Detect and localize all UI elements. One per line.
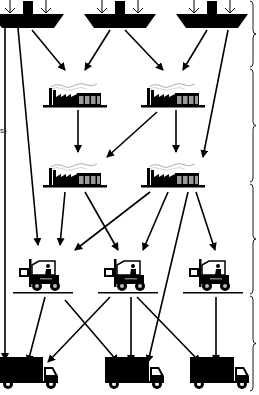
flow-arrow xyxy=(28,297,45,362)
tier-brace xyxy=(250,184,256,294)
flow-arrow xyxy=(137,297,200,362)
flow-arrow xyxy=(125,30,163,70)
tier-braces xyxy=(250,1,256,391)
ship-icon xyxy=(0,0,64,28)
flow-arrow xyxy=(107,112,157,157)
flow-arrow xyxy=(48,297,110,362)
truck-icon xyxy=(0,357,58,389)
forklift-icon xyxy=(98,259,158,294)
tier-brace xyxy=(250,296,256,391)
flow-arrow xyxy=(18,28,38,245)
truck-icon xyxy=(105,357,164,389)
tier-brace xyxy=(250,69,256,182)
flow-arrow xyxy=(65,300,118,362)
factory-icon xyxy=(141,84,205,108)
forklift-icon xyxy=(13,259,73,294)
flow-arrow xyxy=(203,30,228,157)
supply-chain-diagram: s) xyxy=(0,0,259,395)
flow-arrow xyxy=(143,192,168,250)
ship-icon xyxy=(176,0,248,28)
flow-arrow xyxy=(196,192,215,250)
tier-brace xyxy=(250,1,256,67)
factory-icon xyxy=(43,164,107,188)
truck-icon xyxy=(190,357,249,389)
flow-arrows xyxy=(5,28,228,362)
factory-icon xyxy=(43,84,107,108)
flow-arrow xyxy=(85,30,110,70)
ship-icon xyxy=(84,0,156,28)
flow-arrow xyxy=(183,30,207,70)
factory-icon xyxy=(141,164,205,188)
supply-chain-nodes xyxy=(0,0,249,389)
forklift-icon xyxy=(183,259,243,294)
flow-arrow xyxy=(148,192,188,362)
cropped-label-fragment: s) xyxy=(0,126,7,135)
flow-arrow xyxy=(32,30,65,70)
flow-arrow xyxy=(60,192,65,245)
diagram-canvas xyxy=(0,0,259,395)
